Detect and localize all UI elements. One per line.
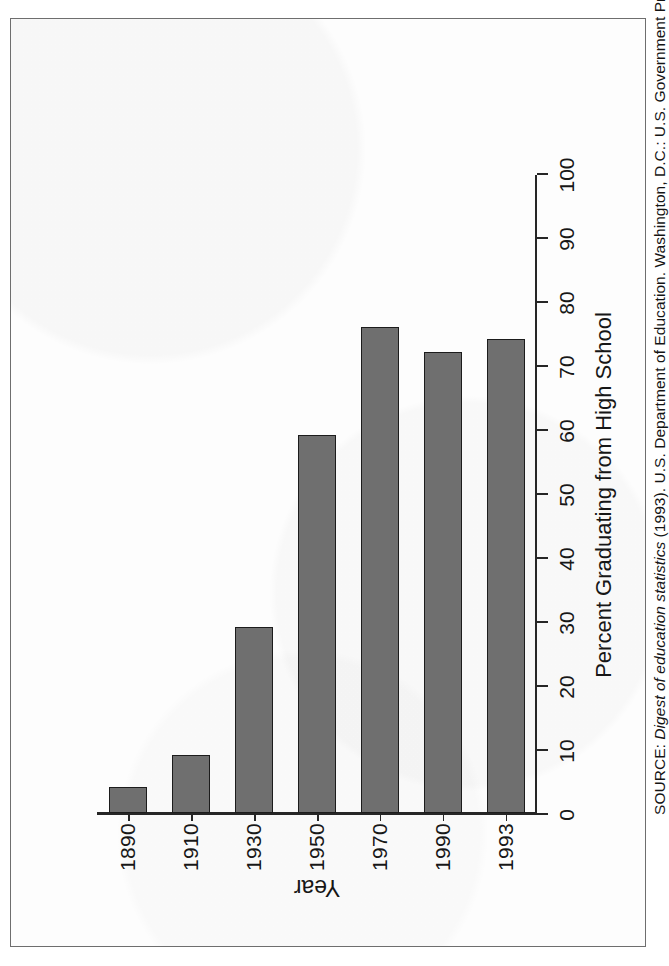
category-tick-label: 1930 [242,823,266,871]
value-tick [537,557,548,559]
bar-group: 1993 [486,173,524,813]
bar [172,755,210,813]
bar-group: 1930 [235,173,273,813]
source-note-rest: (1993). U.S. Department of Education. Wa… [651,0,668,542]
value-tick-label: 20 [555,675,579,698]
category-tick-label: 1970 [367,823,391,871]
bar-group: 1890 [109,173,147,813]
value-tick-label: 30 [555,611,579,634]
value-tick-label: 100 [555,157,579,192]
source-note: SOURCE: Digest of education statistics (… [651,0,669,815]
category-tick [254,813,256,821]
category-tick [128,813,130,821]
value-tick [537,237,548,239]
source-note-prefix: SOURCE: [651,740,668,815]
bar [360,327,398,813]
category-tick-label: 1990 [430,823,454,871]
value-tick-label: 60 [555,419,579,442]
category-tick-label: 1993 [493,823,517,871]
x-axis-title: Year [293,874,339,901]
category-tick [191,813,193,821]
category-tick-label: 1910 [179,823,203,871]
source-note-title: Digest of education statistics [651,542,668,740]
plot-area: Year 1890191019301950197019901993 010203… [97,175,537,815]
value-tick [537,429,548,431]
value-tick-label: 80 [555,291,579,314]
value-tick [537,621,548,623]
y-axis-title: Percent Graduating from High School [591,175,617,815]
bar-group: 1990 [423,173,461,813]
category-tick [317,813,319,821]
bar [235,627,273,813]
bar-group: 1950 [298,173,336,813]
value-tick [537,301,548,303]
value-tick-label: 90 [555,227,579,250]
value-tick-label: 10 [555,739,579,762]
category-tick-label: 1950 [305,823,329,871]
value-tick-label: 70 [555,355,579,378]
value-tick-label: 40 [555,547,579,570]
bar [486,339,524,813]
value-axis-line [534,175,537,815]
value-tick-label: 50 [555,483,579,506]
bar-group: 1910 [172,173,210,813]
category-tick [505,813,507,821]
category-tick [442,813,444,821]
bar [109,787,147,813]
value-tick [537,365,548,367]
bar-group: 1970 [360,173,398,813]
value-tick [537,173,548,175]
bar [298,435,336,813]
category-tick-label: 1890 [116,823,140,871]
value-tick-label: 0 [555,809,579,821]
value-tick [537,749,548,751]
bar [423,352,461,813]
value-tick [537,813,548,815]
bar-chart-figure: Year 1890191019301950197019901993 010203… [51,33,611,933]
category-tick [379,813,381,821]
value-tick [537,685,548,687]
value-tick [537,493,548,495]
